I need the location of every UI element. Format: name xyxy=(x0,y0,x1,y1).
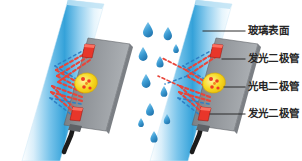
diagram-canvas: 玻璃表面 发光二极管 光电二极管 发光二极管 xyxy=(0,0,302,161)
dry-glass-panel xyxy=(22,0,133,161)
label-photodiode: 光电二极管 xyxy=(248,81,299,92)
label-led-top: 发光二极管 xyxy=(248,53,299,64)
label-led-bottom: 发光二极管 xyxy=(248,108,299,119)
wet-glass-panel xyxy=(138,0,261,161)
label-glass-surface: 玻璃表面 xyxy=(248,25,289,36)
